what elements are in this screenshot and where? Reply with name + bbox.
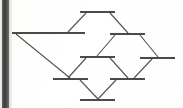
hasse-diagram-canvas bbox=[0, 0, 183, 108]
lattice-edge-n2-n6 bbox=[16, 34, 70, 78]
lattice-edge-n1-n3 bbox=[110, 13, 128, 33]
lattice-node-layer bbox=[12, 12, 175, 100]
lattice-edge-n5-n7 bbox=[134, 59, 152, 78]
hasse-diagram-figure bbox=[0, 0, 183, 108]
lattice-edge-n4-n6 bbox=[68, 58, 86, 78]
lattice-edge-n7-n8 bbox=[98, 80, 116, 99]
lattice-edge-n6-n8 bbox=[80, 80, 98, 99]
lattice-edge-n4-n7 bbox=[110, 58, 128, 78]
lattice-edge-n3-n5 bbox=[140, 35, 158, 57]
lattice-edge-n1-n2 bbox=[68, 13, 86, 32]
lattice-edge-n3-n4 bbox=[97, 35, 115, 56]
